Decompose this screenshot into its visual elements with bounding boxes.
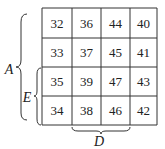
- grid-cell: 43: [137, 74, 150, 89]
- grid-cell: 38: [80, 103, 93, 118]
- label-e: E: [22, 90, 32, 105]
- grid-cell: 44: [109, 16, 123, 31]
- grid-cell: 32: [51, 16, 64, 31]
- grid-cell: 37: [80, 45, 94, 60]
- brace-e: [34, 68, 41, 125]
- label-a: A: [4, 62, 14, 77]
- grid-cell: 47: [109, 74, 123, 89]
- grid-cell: 36: [80, 16, 94, 31]
- grid-cell: 41: [137, 45, 150, 60]
- grid-cell: 39: [80, 74, 93, 89]
- grid-cell: 42: [137, 103, 150, 118]
- grid-cell: 45: [109, 45, 122, 60]
- grid-cell: 34: [51, 103, 65, 118]
- grid-cell: 40: [137, 16, 150, 31]
- grid-cell: 33: [51, 45, 64, 60]
- grid-cell: 35: [51, 74, 64, 89]
- grid-cell: 46: [109, 103, 123, 118]
- grid-diagram: 32364440333745413539474334384642 A E D: [0, 0, 165, 149]
- label-d: D: [93, 134, 104, 149]
